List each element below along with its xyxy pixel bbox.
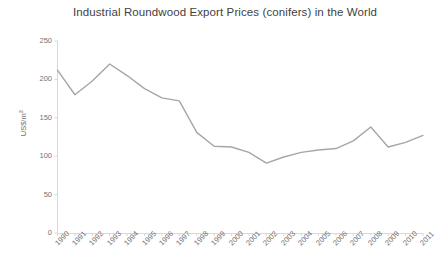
x-tick-label: 2011: [418, 230, 436, 248]
x-tick-label: 1996: [157, 229, 175, 247]
x-tick-label: 2003: [279, 229, 297, 247]
x-tick-label: 1990: [53, 229, 71, 247]
x-tick-label: 1995: [140, 229, 158, 247]
x-tick-label: 1997: [174, 229, 192, 247]
x-tick-label: 2002: [261, 229, 279, 247]
x-tick-label: 2004: [296, 229, 314, 247]
x-tick-label: 1998: [192, 229, 210, 247]
x-tick-label: 2006: [331, 229, 349, 247]
x-tick-label: 2008: [366, 229, 384, 247]
x-tick-label: 2001: [244, 229, 262, 247]
x-tick-label: 2007: [348, 229, 366, 247]
x-tick-label: 2005: [314, 229, 332, 247]
x-tick-label: 1994: [122, 229, 140, 247]
x-tick-label: 2010: [401, 229, 419, 247]
x-axis-tick-labels: 1990199119921993199419951996199719981999…: [0, 0, 447, 277]
x-tick-label: 2009: [383, 229, 401, 247]
x-tick-label: 1993: [105, 229, 123, 247]
x-tick-label: 2000: [227, 229, 245, 247]
x-tick-label: 1991: [70, 229, 88, 247]
x-tick-label: 1992: [87, 229, 105, 247]
chart-container: Industrial Roundwood Export Prices (coni…: [0, 0, 447, 277]
x-tick-label: 1999: [209, 229, 227, 247]
